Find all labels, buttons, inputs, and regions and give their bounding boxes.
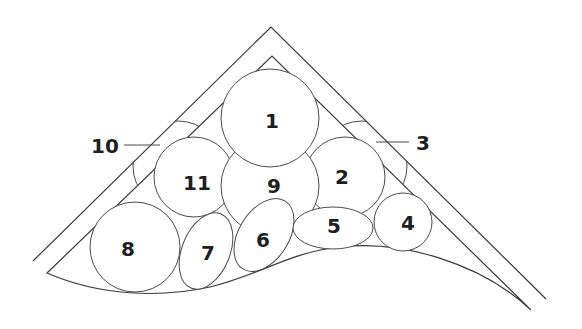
element-4: 4 — [374, 193, 432, 251]
label-1: 1 — [265, 109, 279, 133]
label-10: 10 — [91, 134, 119, 158]
element-1: 1 — [221, 69, 319, 167]
packing-diagram: 8 11 2 9 1 7 6 — [0, 0, 582, 329]
label-6: 6 — [256, 228, 270, 252]
label-7: 7 — [201, 241, 215, 265]
label-3: 3 — [416, 131, 430, 155]
callout-3: 3 — [376, 131, 430, 155]
label-4: 4 — [401, 211, 415, 235]
label-11: 11 — [183, 171, 211, 195]
label-2: 2 — [335, 165, 349, 189]
element-5: 5 — [293, 207, 373, 249]
label-9: 9 — [267, 174, 281, 198]
element-8: 8 — [90, 202, 180, 292]
label-8: 8 — [121, 237, 135, 261]
label-5: 5 — [327, 214, 341, 238]
